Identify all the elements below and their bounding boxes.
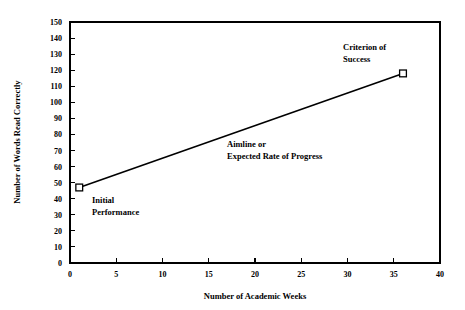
x-tick-label-5: 5: [114, 270, 118, 279]
y-tick-label-110: 110: [50, 82, 62, 91]
x-tick-label-0: 0: [68, 270, 72, 279]
initial-performance-line2: Performance: [92, 207, 139, 217]
aimline-line2: Expected Rate of Progress: [227, 151, 323, 161]
x-tick-label-10: 10: [159, 270, 167, 279]
aimline-line1: Aimline or: [227, 139, 266, 149]
data-point-marker: [76, 184, 83, 191]
x-tick-label-15: 15: [205, 270, 213, 279]
initial-performance-line1: Initial: [92, 195, 115, 205]
y-tick-label-0: 0: [58, 259, 62, 268]
y-tick-label-140: 140: [50, 34, 62, 43]
y-tick-label-60: 60: [54, 163, 62, 172]
x-tick-label-35: 35: [390, 270, 398, 279]
x-axis-title: Number of Academic Weeks: [204, 291, 307, 301]
criterion-of-success-line2: Success: [343, 54, 371, 64]
y-tick-label-40: 40: [54, 195, 62, 204]
y-tick-label-90: 90: [54, 114, 62, 123]
y-tick-label-120: 120: [50, 66, 62, 75]
y-tick-label-130: 130: [50, 50, 62, 59]
aimline-progress-chart: 0102030405060708090100110120130140150 05…: [0, 0, 465, 310]
y-tick-label-100: 100: [50, 98, 62, 107]
y-tick-label-10: 10: [54, 243, 62, 252]
y-tick-label-30: 30: [54, 211, 62, 220]
x-tick-label-40: 40: [436, 270, 444, 279]
y-tick-label-150: 150: [50, 18, 62, 27]
y-tick-label-20: 20: [54, 227, 62, 236]
chart-screenshot: 0102030405060708090100110120130140150 05…: [0, 0, 465, 310]
data-point-marker: [400, 70, 407, 77]
criterion-of-success-line1: Criterion of: [343, 42, 386, 52]
x-tick-label-30: 30: [344, 270, 352, 279]
y-tick-label-80: 80: [54, 130, 62, 139]
y-axis-title: Number of Words Read Correctly: [12, 80, 22, 204]
x-tick-label-20: 20: [251, 270, 259, 279]
x-tick-label-25: 25: [297, 270, 305, 279]
y-tick-label-50: 50: [54, 179, 62, 188]
y-tick-label-70: 70: [54, 147, 62, 156]
